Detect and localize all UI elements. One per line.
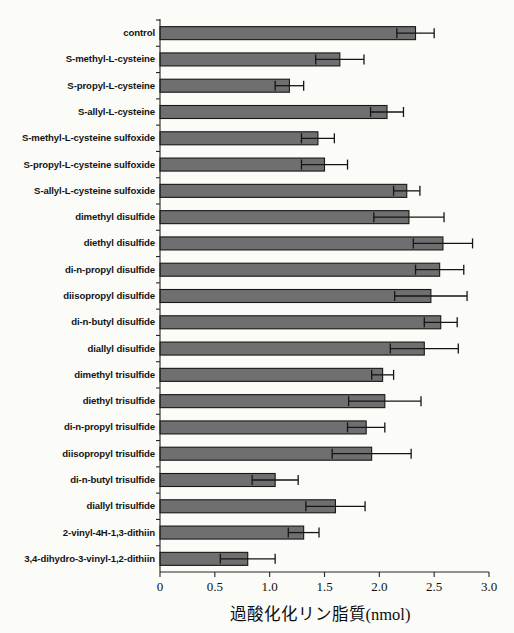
- bar-13: [160, 368, 383, 381]
- x-tick-label-6: 3.0: [481, 579, 497, 594]
- bar-3: [160, 106, 387, 119]
- lipid-peroxide-bar-chart: controlS-methyl-L-cysteineS-propyl-L-cys…: [0, 0, 514, 633]
- bar-7: [160, 211, 409, 224]
- bar-10: [160, 290, 431, 303]
- category-label-12: diallyl disulfide: [87, 343, 155, 354]
- x-tick-label-0: 0: [157, 579, 164, 594]
- x-tick-label-5: 2.5: [426, 579, 442, 594]
- x-tick-label-3: 1.5: [316, 579, 332, 594]
- x-tick-label-2: 1.0: [262, 579, 278, 594]
- category-label-2: S-propyl-L-cysteine: [67, 80, 155, 91]
- bar-0: [160, 27, 416, 40]
- category-label-11: di-n-butyl disulfide: [71, 316, 155, 327]
- category-label-15: di-n-propyl trisulfide: [64, 421, 155, 432]
- bar-4: [160, 132, 318, 145]
- category-label-16: diisopropyl trisulfide: [62, 448, 155, 459]
- bar-1: [160, 53, 340, 66]
- category-label-3: S-allyl-L-cysteine: [78, 106, 155, 117]
- x-tick-label-1: 0.5: [207, 579, 223, 594]
- category-label-20: 3,4-dihydro-3-vinyl-1,2-dithiin: [24, 553, 155, 564]
- bar-9: [160, 263, 440, 276]
- category-label-0: control: [123, 27, 155, 38]
- category-label-19: 2-vinyl-4H-1,3-dithiin: [63, 527, 155, 538]
- bar-2: [160, 79, 289, 92]
- category-label-8: diethyl disulfide: [84, 237, 155, 248]
- category-label-7: dimethyl disulfide: [75, 211, 155, 222]
- category-label-17: di-n-butyl trisulfide: [70, 474, 155, 485]
- category-label-1: S-methyl-L-cysteine: [66, 53, 155, 64]
- category-label-10: diisopropyl disulfide: [63, 290, 155, 301]
- category-label-5: S-propyl-L-cysteine sulfoxide: [24, 159, 155, 170]
- category-label-13: dimethyl trisulfide: [74, 369, 155, 380]
- bar-11: [160, 316, 441, 329]
- bar-19: [160, 526, 304, 539]
- category-label-18: diallyl trisulfide: [86, 500, 155, 511]
- x-tick-label-4: 2.0: [371, 579, 387, 594]
- category-label-6: S-allyl-L-cysteine sulfoxide: [34, 185, 155, 196]
- bar-8: [160, 237, 443, 250]
- x-axis-title: 過酸化化リン脂質(nmol): [230, 605, 411, 624]
- category-label-9: di-n-propyl disulfide: [65, 264, 155, 275]
- bar-6: [160, 184, 407, 197]
- bar-12: [160, 342, 424, 355]
- bar-15: [160, 421, 366, 434]
- category-label-4: S-methyl-L-cysteine sulfoxide: [22, 132, 155, 143]
- category-label-14: diethyl trisulfide: [83, 395, 155, 406]
- bar-5: [160, 158, 325, 171]
